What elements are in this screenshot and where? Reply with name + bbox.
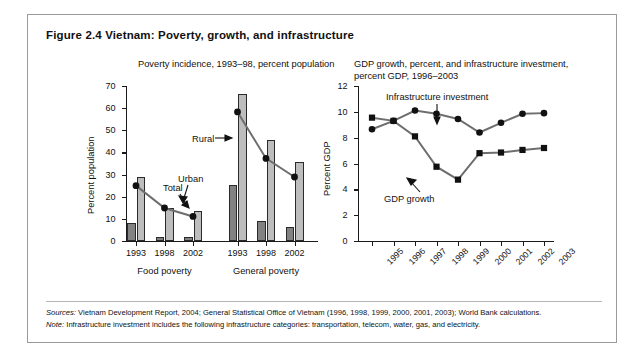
figure-title: Figure 2.4 Vietnam: Poverty, growth, and… <box>46 29 354 41</box>
series-marker-circle <box>369 126 376 133</box>
group-label: General poverty <box>233 266 299 276</box>
x-tick <box>394 241 395 246</box>
y-tick: 30 <box>122 175 127 176</box>
y-tick: 8 <box>354 138 359 139</box>
series-marker-square <box>390 118 396 124</box>
series-marker-square <box>369 115 375 121</box>
series-marker-circle <box>433 110 440 117</box>
figure-footer: Sources: Vietnam Development Report, 200… <box>46 307 602 330</box>
x-tick-label: 1998 <box>256 248 276 258</box>
series-marker-circle <box>498 120 505 127</box>
y-tick-label: 2 <box>342 211 347 220</box>
chart-title-gdp: GDP growth, percent, and infrastructure … <box>346 59 596 82</box>
x-tick <box>544 241 545 246</box>
y-tick: 6 <box>354 164 359 165</box>
y-tick: 20 <box>122 197 127 198</box>
chart-title-poverty: Poverty incidence, 1993–98, percent popu… <box>108 59 338 82</box>
y-tick-label: 8 <box>342 133 347 142</box>
bar-urban <box>286 227 295 241</box>
bar-rural <box>295 162 304 241</box>
x-tick-label: 2002 <box>183 248 203 258</box>
annotation-arrows-gdp <box>358 86 573 264</box>
footer-sources-label: Sources: <box>46 308 76 317</box>
x-tick <box>458 241 459 246</box>
bar-rural <box>238 94 247 241</box>
x-tick-label: 1993 <box>227 248 247 258</box>
x-tick <box>238 241 239 246</box>
y-tick: 10 <box>122 219 127 220</box>
y-tick: 40 <box>122 152 127 153</box>
bar-urban <box>229 185 238 241</box>
x-tick-label: 1996 <box>406 246 427 267</box>
y-tick-label: 40 <box>105 148 115 157</box>
footer-note: Note: Infrastructure investment includes… <box>46 319 602 331</box>
y-tick-label: 12 <box>337 82 347 91</box>
x-tick <box>501 241 502 246</box>
x-tick <box>193 241 194 246</box>
annotation-gdp-growth: GDP growth <box>384 194 434 204</box>
x-tick-label: 2002 <box>284 248 304 258</box>
series-line <box>372 111 544 133</box>
plot-area-gdp: Percent GDP 024681012 199519961997199819… <box>358 86 573 264</box>
x-tick-label: 2003 <box>557 246 578 267</box>
y-tick-label: 60 <box>105 104 115 113</box>
y-axis-label-gdp: Percent GDP <box>322 141 332 196</box>
x-tick-label: 1998 <box>154 248 174 258</box>
x-tick-label: 2001 <box>514 246 535 267</box>
series-marker-circle <box>476 129 483 136</box>
y-tick-label: 10 <box>105 214 115 223</box>
y-tick-label: 70 <box>105 82 115 91</box>
x-tick-label: 1997 <box>428 246 449 267</box>
series-marker-square <box>412 133 418 139</box>
series-marker-square <box>498 149 504 155</box>
series-marker-square <box>541 145 547 151</box>
bar-urban <box>156 237 165 241</box>
x-tick-label: 1995 <box>385 246 406 267</box>
x-tick <box>415 241 416 246</box>
annotation-infrastructure-investment: Infrastructure investment <box>386 92 488 102</box>
y-tick: 4 <box>354 189 359 190</box>
y-tick-label: 10 <box>337 107 347 116</box>
series-marker-circle <box>519 110 526 117</box>
series-marker-circle <box>541 110 548 117</box>
x-tick <box>165 241 166 246</box>
series-marker-circle <box>390 118 397 125</box>
bar-urban <box>127 223 136 241</box>
footer-note-text: Infrastructure investment includes the f… <box>64 320 480 329</box>
x-tick <box>266 241 267 246</box>
x-tick <box>295 241 296 246</box>
x-tick <box>480 241 481 246</box>
y-tick: 0 <box>354 241 359 242</box>
y-tick: 10 <box>354 112 359 113</box>
x-axis-gdp <box>358 241 554 242</box>
bar-rural <box>267 140 276 241</box>
y-tick: 2 <box>354 215 359 216</box>
footer-divider <box>46 301 602 302</box>
series-lines-gdp <box>358 86 573 264</box>
y-tick: 50 <box>122 130 127 131</box>
series-marker-square <box>476 150 482 156</box>
chart-gdp-infrastructure: GDP growth, percent, and infrastructure … <box>346 59 596 264</box>
x-tick <box>372 241 373 246</box>
x-tick-label: 1993 <box>126 248 146 258</box>
x-tick <box>136 241 137 246</box>
annotation-rural: Rural <box>192 134 214 144</box>
y-tick: 12 <box>354 86 359 87</box>
y-tick-label: 6 <box>342 159 347 168</box>
y-tick-label: 30 <box>105 170 115 179</box>
y-tick: 70 <box>122 86 127 87</box>
bar-rural <box>194 211 203 241</box>
x-tick <box>523 241 524 246</box>
x-tick-label: 1998 <box>449 246 470 267</box>
x-tick-label: 1999 <box>471 246 492 267</box>
y-axis-gdp <box>358 86 359 241</box>
y-tick: 60 <box>122 108 127 109</box>
series-marker-square <box>455 177 461 183</box>
y-axis-label-poverty: Percent population <box>86 136 96 214</box>
group-label: Food poverty <box>137 266 191 276</box>
y-tick-label: 4 <box>342 185 347 194</box>
x-tick-label: 2000 <box>492 246 513 267</box>
footer-note-label: Note: <box>46 320 64 329</box>
y-tick-label: 20 <box>105 192 115 201</box>
series-line <box>372 118 544 180</box>
